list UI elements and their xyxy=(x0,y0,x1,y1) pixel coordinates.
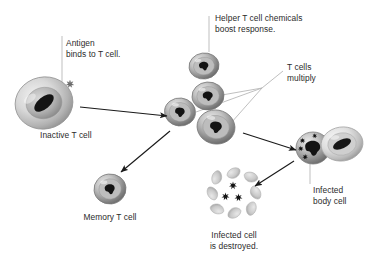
cell-fragment xyxy=(243,171,259,184)
cell-fragment xyxy=(226,205,243,220)
pathogen-star xyxy=(222,192,230,200)
helper-t-cell xyxy=(187,51,220,81)
destroyed-cell-group xyxy=(205,165,263,220)
inactive-t-cell xyxy=(10,72,78,135)
activated-t-cell xyxy=(163,96,197,127)
cell-fragment xyxy=(210,170,223,186)
cell-fragment xyxy=(245,201,258,217)
label-destroyed: Infected cell is destroyed. xyxy=(174,230,294,253)
diagram-canvas: Antigen binds to T cell.Helper T cell ch… xyxy=(0,0,379,260)
t-cell-clone xyxy=(194,107,237,147)
cell-fragment xyxy=(209,202,225,215)
pathogen-star xyxy=(229,181,237,189)
t-cell-clone xyxy=(191,81,225,111)
cell-fragment xyxy=(225,165,242,180)
arrow-to-memory xyxy=(121,131,170,172)
leader-multiply-hub xyxy=(262,71,283,88)
label-antigen: Antigen binds to T cell. xyxy=(66,38,121,61)
cell-fragment xyxy=(205,185,220,202)
destroyed-infected-cell xyxy=(205,165,263,220)
leader-multiply-branch-a xyxy=(222,88,262,95)
label-helper: Helper T cell chemicals boost response. xyxy=(215,13,302,36)
memory-t-cell xyxy=(93,172,128,205)
cell-fragment xyxy=(248,184,263,201)
label-memory: Memory T cell xyxy=(50,212,170,223)
label-multiply: T cells multiply xyxy=(287,62,316,85)
label-infected: Infected body cell xyxy=(313,185,347,208)
label-inactive: Inactive T cell xyxy=(40,130,92,141)
arrow-activation xyxy=(80,107,167,116)
pathogen-star xyxy=(235,193,243,201)
arrow-to-infected-cell xyxy=(243,133,296,150)
arrow-to-destroyed-cell xyxy=(255,161,294,186)
